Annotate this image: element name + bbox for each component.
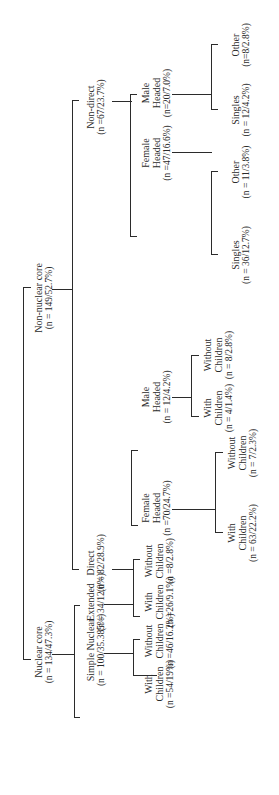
node-label-2: Headed <box>151 370 162 423</box>
dmh-tick-with <box>191 416 199 417</box>
ndm-tick-other <box>211 44 218 45</box>
node-label-1: Female <box>140 125 151 181</box>
node-label-1: Male <box>140 69 151 117</box>
node-label: Direct <box>85 534 96 592</box>
direct-stem <box>112 569 134 570</box>
node-stat: (n =70/24.7%) <box>162 480 173 536</box>
nd-tick-female <box>130 236 137 237</box>
node-label: Singles <box>230 83 241 136</box>
node-stat: (n = 8/2.8%) <box>224 331 235 379</box>
node-stat: (n = 7/2.3%) <box>248 429 259 477</box>
dfh-tick-without <box>215 452 223 453</box>
node-non-direct: Non-direct (n =67/23.7%) <box>85 79 107 135</box>
node-label-1: Without <box>202 331 213 379</box>
non-direct-stem <box>112 101 132 102</box>
node-ndm-other: Other (n=8/2.8%) <box>230 23 252 67</box>
dfh-tick-with <box>215 532 223 533</box>
root-tick-nuclear <box>23 659 31 660</box>
node-label-1: With <box>202 384 213 432</box>
node-stat: (n =26/9.1%) <box>165 577 176 628</box>
ndm-tick-singles <box>211 109 218 110</box>
node-ndf-other: Other (n = 11/3.8%) <box>230 146 252 199</box>
node-stat: (n = 82/28.9%) <box>96 534 107 592</box>
dmh-tick-without <box>191 355 199 356</box>
node-stat: (n = 4/1.4%) <box>224 384 235 432</box>
non-nuclear-bracket <box>72 100 73 570</box>
node-label-1: With <box>226 504 237 562</box>
node-label-2: Children <box>213 331 224 379</box>
root-tick-non-nuclear <box>23 287 31 288</box>
ndm-stem <box>172 94 212 95</box>
node-ext-with-children: With Children (n =26/9.1%) <box>143 577 176 628</box>
household-tree-diagram: Non-nuclear core (n = 149/52.7%) Nuclear… <box>0 0 279 795</box>
node-label-1: With <box>143 577 154 628</box>
node-label-2: Headed <box>151 480 162 536</box>
direct-tick-male <box>131 450 138 451</box>
node-stat: (n=8/2.8%) <box>241 23 252 67</box>
node-stat: (n = 11/3.8%) <box>241 146 252 199</box>
dfh-stem <box>172 509 216 510</box>
node-nd-male-headed: Male Headed (n=20/7.0%) <box>140 69 173 117</box>
node-ndf-singles: Singles (n = 36/12.7%) <box>230 226 252 284</box>
node-label: Non-direct <box>85 79 96 135</box>
non-nuclear-stem <box>52 289 72 290</box>
node-label: Other <box>230 146 241 199</box>
ndf-tick-other <box>211 171 218 172</box>
nd-tick-male <box>130 94 137 95</box>
ndf-bracket <box>211 171 212 255</box>
sn-tick-without <box>133 639 140 640</box>
node-label-2: Children <box>237 504 248 562</box>
non-nuclear-tick-non-direct <box>72 100 79 101</box>
ndm-bracket <box>211 44 212 110</box>
node-nd-female-headed: Female Headed (n =47/16.6%) <box>140 125 173 181</box>
node-label-1: Female <box>140 480 151 536</box>
nuclear-tick-simple <box>74 717 80 718</box>
node-stat: (n = 12/4.2%) <box>241 83 252 136</box>
node-ndm-singles: Singles (n = 12/4.2%) <box>230 83 252 136</box>
node-non-nuclear-core: Non-nuclear core (n = 149/52.7%) <box>33 263 55 333</box>
node-label-2: Children <box>213 384 224 432</box>
ext-tick-with <box>133 616 140 617</box>
node-nuclear-core: Nuclear core (n = 134/47.3%) <box>33 621 55 684</box>
node-label: Non-nuclear core <box>33 263 44 333</box>
node-dfh-with-children: With Children (n = 63/22.2%) <box>226 504 259 562</box>
node-label-1: Without <box>226 429 237 477</box>
node-stat: (n = 12/4.2%) <box>162 370 173 423</box>
non-nuclear-tick-direct <box>72 569 79 570</box>
simple-nuclear-bracket <box>133 639 134 676</box>
dmh-stem <box>172 397 192 398</box>
nuclear-tick-extended <box>74 605 80 606</box>
node-stat: (n = 149/52.7%) <box>44 263 55 333</box>
dmh-bracket <box>191 355 192 417</box>
ndf-tick-singles <box>211 254 218 255</box>
ext-tick-without <box>133 559 140 560</box>
node-stat: (n = 36/12.7%) <box>241 226 252 284</box>
non-direct-bracket <box>130 94 131 237</box>
node-dfh-without-children: Without Children (n = 7/2.3%) <box>226 429 259 477</box>
node-label-2: Children <box>237 429 248 477</box>
node-dmh-without-children: Without Children (n = 8/2.8%) <box>202 331 235 379</box>
node-stat: (n =8/2.8%) <box>165 538 176 584</box>
direct-children-bar <box>131 450 132 526</box>
node-stat: (n =47/16.6%) <box>162 125 173 181</box>
node-label-1: Without <box>143 538 154 584</box>
root-bar <box>23 287 24 660</box>
nuclear-core-bracket <box>74 605 75 718</box>
node-label-2: Headed <box>151 69 162 117</box>
node-label-1: Male <box>140 370 151 423</box>
node-label-2: Children <box>154 577 165 628</box>
node-label-2: Children <box>154 538 165 584</box>
direct-tick-female <box>131 525 138 526</box>
node-ext-without-children: Without Children (n =8/2.8%) <box>143 538 176 584</box>
node-stat: (n = 63/22.2%) <box>248 504 259 562</box>
node-label: Singles <box>230 226 241 284</box>
node-direct: Direct (n = 82/28.9%) <box>85 534 107 592</box>
ndf-stem <box>172 152 212 153</box>
node-stat: (n=20/7.0%) <box>162 69 173 117</box>
node-direct-male-headed: Male Headed (n = 12/4.2%) <box>140 370 173 423</box>
node-label: Nuclear core <box>33 621 44 684</box>
node-direct-female-headed: Female Headed (n =70/24.7%) <box>140 480 173 536</box>
node-label: Other <box>230 23 241 67</box>
node-label-2: Headed <box>151 125 162 181</box>
node-stat: (n =67/23.7%) <box>96 79 107 135</box>
